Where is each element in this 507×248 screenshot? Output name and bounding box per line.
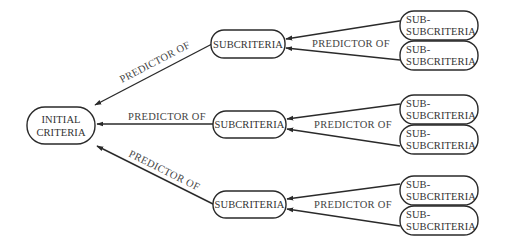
node-initial-criteria-line2: CRITERIA — [36, 127, 86, 138]
edge-label-sub2-to-root: PREDICTOR OF — [128, 111, 206, 122]
edge-label-branch2-children: PREDICTOR OF — [314, 119, 392, 130]
edge-label-branch3-children: PREDICTOR OF — [314, 199, 392, 210]
node-sub-subcriteria-1b: SUB- SUBCRITERIA — [400, 41, 478, 70]
node-initial-criteria-line1: INITIAL — [41, 114, 80, 125]
node-sub-subcriteria-2a-line2: SUBCRITERIA — [406, 110, 476, 121]
node-sub-subcriteria-1b-line1: SUB- — [406, 44, 431, 55]
node-sub-subcriteria-1b-line2: SUBCRITERIA — [406, 56, 476, 67]
edge-subsub1a-to-sub1 — [286, 21, 400, 39]
node-sub-subcriteria-1a-line1: SUB- — [406, 14, 431, 25]
criteria-hierarchy-diagram: PREDICTOR OF PREDICTOR OF PREDICTOR OF P… — [0, 0, 507, 248]
node-sub-subcriteria-2a-line1: SUB- — [406, 98, 431, 109]
edge-subsub3b-to-sub3 — [287, 209, 400, 226]
edge-sub1-to-root — [95, 44, 212, 105]
node-subcriteria-1-label: SUBCRITERIA — [213, 39, 283, 50]
node-subcriteria-3: SUBCRITERIA — [213, 191, 286, 218]
node-sub-subcriteria-2b-line1: SUB- — [406, 128, 431, 139]
node-sub-subcriteria-3a-line2: SUBCRITERIA — [406, 191, 476, 202]
node-sub-subcriteria-3b: SUB- SUBCRITERIA — [400, 206, 478, 235]
edge-subsub2b-to-sub2 — [287, 129, 400, 146]
edge-label-sub1-to-root: PREDICTOR OF — [118, 39, 192, 85]
edge-subsub2a-to-sub2 — [287, 104, 400, 119]
edge-subsub3a-to-sub3 — [287, 184, 400, 199]
node-sub-subcriteria-2b: SUB- SUBCRITERIA — [400, 125, 478, 154]
edge-label-sub3-to-root: PREDICTOR OF — [127, 148, 202, 193]
edge-label-branch1-children: PREDICTOR OF — [312, 38, 390, 49]
edge-sub3-to-root — [97, 146, 213, 204]
node-sub-subcriteria-3b-line1: SUB- — [406, 209, 431, 220]
node-subcriteria-1: SUBCRITERIA — [211, 30, 285, 58]
node-sub-subcriteria-2a: SUB- SUBCRITERIA — [400, 95, 478, 124]
node-sub-subcriteria-3a-line1: SUB- — [406, 179, 431, 190]
node-sub-subcriteria-1a-line2: SUBCRITERIA — [406, 26, 476, 37]
node-subcriteria-2: SUBCRITERIA — [213, 111, 286, 138]
node-sub-subcriteria-2b-line2: SUBCRITERIA — [406, 140, 476, 151]
node-subcriteria-3-label: SUBCRITERIA — [215, 199, 285, 210]
node-sub-subcriteria-3b-line2: SUBCRITERIA — [406, 221, 476, 232]
node-sub-subcriteria-3a: SUB- SUBCRITERIA — [400, 176, 478, 205]
edge-subsub1b-to-sub1 — [286, 48, 400, 60]
node-initial-criteria: INITIAL CRITERIA — [27, 107, 95, 144]
node-subcriteria-2-label: SUBCRITERIA — [215, 119, 285, 130]
node-sub-subcriteria-1a: SUB- SUBCRITERIA — [400, 11, 478, 40]
